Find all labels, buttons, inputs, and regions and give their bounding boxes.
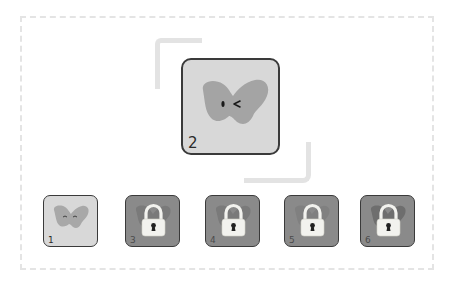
level-number: 2 <box>188 134 198 152</box>
level-number: 6 <box>365 235 371 245</box>
selected-level-tile[interactable]: 2 <box>181 58 280 155</box>
level-tile-1[interactable]: 1 <box>43 195 98 247</box>
level-number: 1 <box>48 235 54 245</box>
level-number: 5 <box>289 235 295 245</box>
level-tile-3[interactable]: 3 <box>125 195 180 247</box>
level-number: 4 <box>210 235 216 245</box>
level-tile-4[interactable]: 4 <box>205 195 260 247</box>
padlock-icon <box>142 206 165 237</box>
padlock-icon <box>377 206 400 237</box>
level-tile-5[interactable]: 5 <box>284 195 339 247</box>
level-number: 3 <box>130 235 136 245</box>
padlock-icon <box>222 206 245 237</box>
padlock-icon <box>301 206 324 237</box>
level-tile-6[interactable]: 6 <box>360 195 415 247</box>
butterfly-wink-icon <box>183 60 280 155</box>
